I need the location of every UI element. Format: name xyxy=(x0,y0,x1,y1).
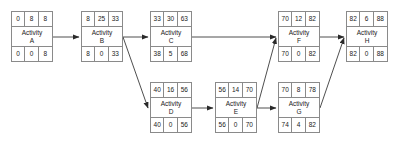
node-bottom-row: 008 xyxy=(12,47,52,61)
activity-label-line1: Activity xyxy=(217,100,255,107)
node-label-row: ActivityF xyxy=(279,26,319,47)
cell-late-finish: 56 xyxy=(178,118,191,132)
node-bottom-row: 82088 xyxy=(347,47,387,61)
cell-slack: 5 xyxy=(164,47,177,61)
activity-label: ActivityH xyxy=(347,29,387,44)
activity-label: ActivityC xyxy=(151,29,191,44)
cell-early-start: 0 xyxy=(12,12,25,26)
cell-slack: 0 xyxy=(360,47,373,61)
activity-label-line2: B xyxy=(83,37,121,44)
cell-late-start: 74 xyxy=(279,118,292,132)
cell-early-start: 70 xyxy=(279,83,292,97)
cell-late-start: 56 xyxy=(216,118,229,132)
node-label-row: ActivityE xyxy=(216,97,256,118)
edge-g-to-h xyxy=(320,38,344,108)
cell-late-start: 38 xyxy=(151,47,164,61)
cell-late-finish: 8 xyxy=(39,47,52,61)
node-label-row: ActivityB xyxy=(82,26,122,47)
cell-slack: 0 xyxy=(25,47,38,61)
node-bottom-row: 38568 xyxy=(151,47,191,61)
activity-label: ActivityE xyxy=(216,100,256,115)
cell-late-finish: 88 xyxy=(374,47,387,61)
activity-node-d[interactable]: 401656ActivityD40056 xyxy=(150,82,192,133)
cell-slack: 0 xyxy=(164,118,177,132)
activity-label-line2: H xyxy=(348,37,386,44)
cell-duration: 30 xyxy=(164,12,177,26)
cell-late-finish: 33 xyxy=(109,47,122,61)
activity-label-line2: D xyxy=(152,108,190,115)
cell-duration: 16 xyxy=(164,83,177,97)
node-bottom-row: 8033 xyxy=(82,47,122,61)
node-label-row: ActivityG xyxy=(279,97,319,118)
edge-b-to-d xyxy=(123,37,148,108)
activity-node-a[interactable]: 088ActivityA008 xyxy=(11,11,53,62)
activity-label-line2: G xyxy=(280,108,318,115)
cell-late-start: 0 xyxy=(12,47,25,61)
cell-early-start: 40 xyxy=(151,83,164,97)
cell-late-start: 82 xyxy=(347,47,360,61)
cell-late-finish: 82 xyxy=(306,47,319,61)
activity-node-f[interactable]: 701282ActivityF70082 xyxy=(278,11,320,62)
cell-late-start: 40 xyxy=(151,118,164,132)
edge-layer xyxy=(0,0,400,143)
activity-node-e[interactable]: 561470ActivityE56070 xyxy=(215,82,257,133)
cell-early-start: 82 xyxy=(347,12,360,26)
activity-label-line2: C xyxy=(152,37,190,44)
cell-early-finish: 63 xyxy=(178,12,191,26)
activity-label: ActivityF xyxy=(279,29,319,44)
cell-early-finish: 78 xyxy=(306,83,319,97)
node-top-row: 70878 xyxy=(279,83,319,97)
edge-e-to-f xyxy=(257,38,276,108)
node-top-row: 401656 xyxy=(151,83,191,97)
node-top-row: 561470 xyxy=(216,83,256,97)
cell-late-start: 70 xyxy=(279,47,292,61)
activity-label-line1: Activity xyxy=(280,29,318,36)
cell-late-finish: 70 xyxy=(243,118,256,132)
node-bottom-row: 74482 xyxy=(279,118,319,132)
node-label-row: ActivityA xyxy=(12,26,52,47)
cell-duration: 14 xyxy=(229,83,242,97)
activity-label-line1: Activity xyxy=(348,29,386,36)
cell-early-finish: 70 xyxy=(243,83,256,97)
cell-early-start: 56 xyxy=(216,83,229,97)
cell-late-start: 8 xyxy=(82,47,95,61)
cell-early-finish: 33 xyxy=(109,12,122,26)
node-bottom-row: 70082 xyxy=(279,47,319,61)
activity-label: ActivityA xyxy=(12,29,52,44)
activity-node-g[interactable]: 70878ActivityG74482 xyxy=(278,82,320,133)
node-label-row: ActivityH xyxy=(347,26,387,47)
cell-duration: 8 xyxy=(292,83,305,97)
activity-label-line2: A xyxy=(13,37,51,44)
cell-early-start: 33 xyxy=(151,12,164,26)
activity-label-line2: F xyxy=(280,37,318,44)
cell-slack: 0 xyxy=(229,118,242,132)
cell-early-start: 8 xyxy=(82,12,95,26)
node-top-row: 088 xyxy=(12,12,52,26)
activity-node-h[interactable]: 82688ActivityH82088 xyxy=(346,11,388,62)
cell-early-finish: 8 xyxy=(39,12,52,26)
node-top-row: 701282 xyxy=(279,12,319,26)
activity-label-line1: Activity xyxy=(13,29,51,36)
cell-duration: 25 xyxy=(95,12,108,26)
cell-duration: 6 xyxy=(360,12,373,26)
cell-early-finish: 88 xyxy=(374,12,387,26)
node-bottom-row: 56070 xyxy=(216,118,256,132)
cell-early-finish: 56 xyxy=(178,83,191,97)
node-bottom-row: 40056 xyxy=(151,118,191,132)
activity-node-b[interactable]: 82533ActivityB8033 xyxy=(81,11,123,62)
cell-late-finish: 82 xyxy=(306,118,319,132)
network-diagram: 088ActivityA00882533ActivityB8033333063A… xyxy=(0,0,400,143)
node-top-row: 82533 xyxy=(82,12,122,26)
cell-slack: 0 xyxy=(95,47,108,61)
cell-duration: 8 xyxy=(25,12,38,26)
cell-late-finish: 68 xyxy=(178,47,191,61)
activity-label: ActivityB xyxy=(82,29,122,44)
activity-label: ActivityD xyxy=(151,100,191,115)
node-top-row: 82688 xyxy=(347,12,387,26)
cell-slack: 4 xyxy=(292,118,305,132)
activity-node-c[interactable]: 333063ActivityC38568 xyxy=(150,11,192,62)
activity-label-line1: Activity xyxy=(280,100,318,107)
activity-label: ActivityG xyxy=(279,100,319,115)
node-top-row: 333063 xyxy=(151,12,191,26)
cell-early-start: 70 xyxy=(279,12,292,26)
